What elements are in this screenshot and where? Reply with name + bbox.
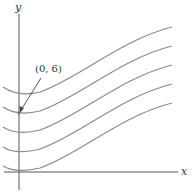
curve-2	[3, 46, 172, 113]
point-label: (0, 6)	[35, 64, 62, 74]
curve-family-diagram: y x (0, 6)	[0, 0, 194, 194]
y-axis-label: y	[15, 2, 21, 13]
x-axis-label: x	[181, 166, 187, 177]
curve-1	[3, 27, 172, 94]
point-marker	[17, 111, 20, 114]
diagram-svg	[0, 0, 194, 194]
